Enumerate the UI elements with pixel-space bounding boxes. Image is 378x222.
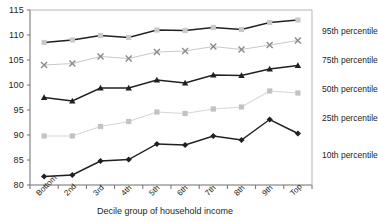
x-axis-title: Decile group of household income <box>0 206 330 216</box>
y-tick-label: 90 <box>2 131 24 140</box>
y-tick-label: 95 <box>2 106 24 115</box>
y-tick-label: 115 <box>2 6 24 15</box>
y-tick-label: 100 <box>2 81 24 90</box>
data-series-layer <box>41 17 301 179</box>
y-tick-label: 85 <box>2 156 24 165</box>
axis-lines <box>30 10 312 185</box>
series-75th-percentile <box>41 38 301 69</box>
y-tick-label: 105 <box>2 56 24 65</box>
legend-entry: 50th percentile <box>322 85 378 94</box>
series-10th-percentile <box>41 116 301 179</box>
legend-entry: 95th percentile <box>322 27 378 36</box>
y-tick-label: 80 <box>2 181 24 190</box>
y-tick-label: 110 <box>2 31 24 40</box>
legend-entry: 10th percentile <box>322 151 378 160</box>
series-95th-percentile <box>42 17 301 45</box>
series-50th-percentile <box>41 62 301 103</box>
legend-entry: 75th percentile <box>322 56 378 65</box>
series-25th-percentile <box>42 88 301 138</box>
legend-entry: 25th percentile <box>322 114 378 123</box>
